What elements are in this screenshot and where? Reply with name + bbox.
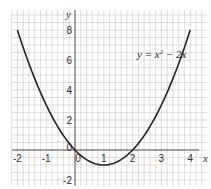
x-tick-label: 2 — [130, 153, 136, 164]
y-tick-label: -2 — [63, 175, 72, 186]
x-tick-label: -2 — [13, 153, 22, 164]
y-tick-label: 6 — [66, 55, 72, 66]
y-tick-label: 8 — [66, 25, 72, 36]
y-axis-label: y — [65, 8, 71, 20]
x-tick-label: 1 — [101, 153, 107, 164]
y-tick-label: 4 — [66, 85, 72, 96]
x-axis-label: x — [202, 152, 208, 164]
x-tick-label: 3 — [159, 153, 165, 164]
x-tick-label: 4 — [187, 153, 193, 164]
y-tick-label: 2 — [66, 115, 72, 126]
x-tick-label: -1 — [42, 153, 51, 164]
parabola-chart: -2-101234-202468 x y y = x2 − 2x — [0, 0, 211, 189]
